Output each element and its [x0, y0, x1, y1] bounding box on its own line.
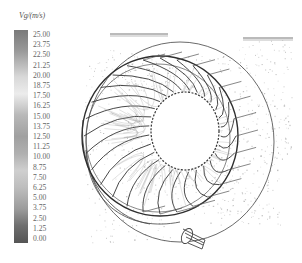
inlet-plate-right: [243, 38, 293, 40]
runner-hub-opening: [151, 92, 219, 170]
runner-flow-visualization: [0, 0, 302, 263]
inlet-plate-left: [110, 34, 168, 36]
outlet-pipe: [179, 227, 205, 249]
